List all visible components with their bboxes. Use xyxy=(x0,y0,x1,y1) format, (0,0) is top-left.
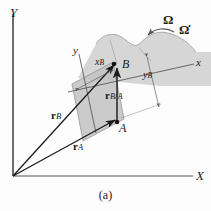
point-a-marker xyxy=(115,120,120,125)
point-b-marker xyxy=(112,62,117,67)
diagram-canvas xyxy=(0,0,211,211)
figure-rigid-body-kinematics: Y X y x A B rB rA rB/A xB yB Ω Ω̇ (a) xyxy=(0,0,211,211)
figure-caption: (a) xyxy=(0,188,211,203)
vector-line-r-a xyxy=(13,120,115,176)
